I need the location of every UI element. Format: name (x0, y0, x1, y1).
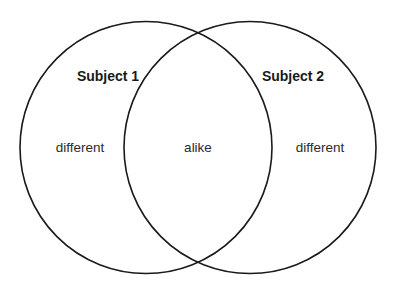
right-region-label: different (296, 141, 345, 155)
subject-1-title: Subject 1 (77, 69, 139, 83)
left-region-label: different (56, 141, 105, 155)
overlap-region-label: alike (184, 141, 212, 155)
venn-diagram: Subject 1 Subject 2 different alike diff… (0, 0, 396, 285)
subject-2-title: Subject 2 (262, 69, 324, 83)
